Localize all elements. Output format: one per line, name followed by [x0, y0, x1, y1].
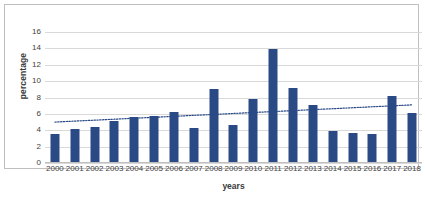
x-tick-label-2002: 2002 — [85, 164, 105, 174]
y-tick-label-2: 2 — [7, 143, 41, 151]
x-tick-label-2012: 2012 — [283, 164, 303, 174]
chart-screenshot: 1614121086420 percentage 200020012002200… — [0, 0, 425, 211]
x-tick-label-2013: 2013 — [303, 164, 323, 174]
x-tick-label-2008: 2008 — [204, 164, 224, 174]
y-axis-title: percentage — [18, 31, 28, 121]
y-tick-label-0: 0 — [7, 159, 41, 167]
y-tick-label-4: 4 — [7, 126, 41, 134]
trendline-series — [45, 32, 422, 163]
x-tick-label-2014: 2014 — [323, 164, 343, 174]
x-tick-label-2009: 2009 — [224, 164, 244, 174]
x-axis-tick-labels: 2000200120022003200420052006200720082009… — [45, 164, 422, 178]
x-tick-label-2016: 2016 — [362, 164, 382, 174]
x-axis-title: years — [45, 181, 422, 191]
x-tick-label-2017: 2017 — [382, 164, 402, 174]
x-tick-label-2006: 2006 — [164, 164, 184, 174]
plot-area — [45, 32, 422, 163]
x-tick-label-2015: 2015 — [343, 164, 363, 174]
x-axis-line — [45, 162, 422, 163]
trendline-path — [55, 105, 412, 122]
x-tick-label-2007: 2007 — [184, 164, 204, 174]
chart-frame: 1614121086420 percentage 200020012002200… — [4, 4, 419, 169]
x-tick-label-2011: 2011 — [263, 164, 283, 174]
x-tick-label-2018: 2018 — [402, 164, 422, 174]
x-tick-label-2001: 2001 — [65, 164, 85, 174]
x-tick-label-2005: 2005 — [144, 164, 164, 174]
x-tick-label-2004: 2004 — [124, 164, 144, 174]
x-tick-label-2003: 2003 — [105, 164, 125, 174]
x-tick-label-2000: 2000 — [45, 164, 65, 174]
x-tick-label-2010: 2010 — [243, 164, 263, 174]
